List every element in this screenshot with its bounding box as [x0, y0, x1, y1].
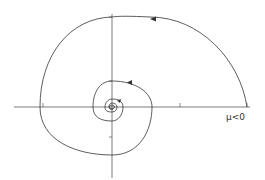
- phase-portrait-diagram: [0, 0, 265, 180]
- arrow-icon-middle: [127, 80, 132, 85]
- spiral-trajectory: [40, 16, 247, 155]
- direction-arrows: [117, 17, 156, 104]
- axes: [14, 14, 250, 178]
- parameter-label: μ<0: [226, 112, 245, 122]
- axis-ticks: [43, 17, 247, 137]
